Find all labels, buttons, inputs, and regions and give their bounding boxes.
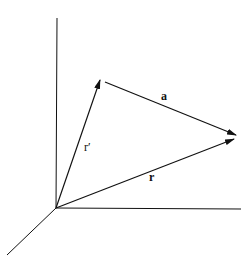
vector-a [105,82,236,135]
vector-r-prime [56,80,100,208]
label-a: a [161,89,167,103]
vector-r [56,139,234,208]
label-r-prime: r′ [84,140,91,154]
depth-axis [7,208,56,255]
label-r: r [149,170,155,184]
vertical-axis [56,18,57,208]
horizontal-axis [56,208,241,209]
vector-diagram: r′ a r [0,0,249,268]
